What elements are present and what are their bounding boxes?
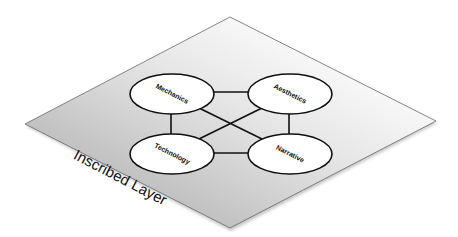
diagram-canvas: Mechanics Aesthetics Technology Narrativ…: [0, 0, 458, 237]
node-aesthetics: Aesthetics: [248, 74, 332, 114]
node-mechanics: Mechanics: [130, 74, 214, 114]
node-narrative: Narrative: [248, 134, 332, 174]
node-technology: Technology: [130, 134, 214, 174]
inscribed-layer-plane: [25, 17, 436, 228]
